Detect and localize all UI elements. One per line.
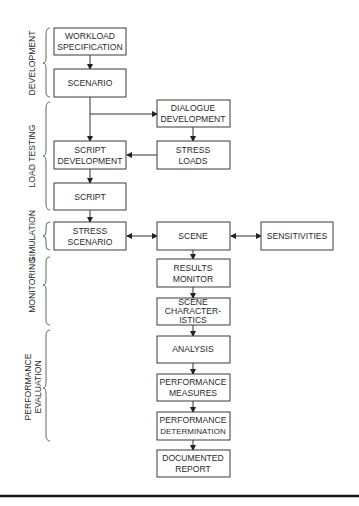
node-text: MEASURES xyxy=(169,388,217,398)
phase-label-performance: PERFORMANCE xyxy=(23,353,33,420)
node-text: PERFORMANCE xyxy=(160,377,227,387)
node-analysis: ANALYSIS xyxy=(157,336,230,363)
phase-load-testing: LOAD TESTING xyxy=(27,102,50,210)
node-text: SCRIPT xyxy=(74,192,106,202)
node-text: STRESS xyxy=(176,145,211,155)
node-text: DOCUMENTED xyxy=(162,453,224,463)
phase-label-monitoring: MONITORING xyxy=(27,257,37,313)
phase-label-development: DEVELOPMENT xyxy=(27,30,37,96)
node-text: REPORT xyxy=(175,464,211,474)
phase-brace-simulation xyxy=(43,222,50,250)
node-text: DEVELOPMENT xyxy=(161,114,227,124)
node-stress-scenario: STRESS SCENARIO xyxy=(54,222,126,250)
node-text: STRESS xyxy=(73,226,108,236)
node-text: DEVELOPMENT xyxy=(58,156,124,166)
phase-brace-load-testing xyxy=(43,102,50,210)
phase-performance-evaluation: PERFORMANCE EVALUATION xyxy=(23,330,50,441)
node-scenario: SCENARIO xyxy=(54,69,126,97)
node-results-monitor: RESULTS MONITOR xyxy=(157,259,230,287)
node-documented-report: DOCUMENTED REPORT xyxy=(157,450,230,477)
node-text: WORKLOAD xyxy=(65,31,115,41)
phase-brace-monitoring xyxy=(43,257,50,325)
phase-label-load-testing: LOAD TESTING xyxy=(27,124,37,187)
phase-development: DEVELOPMENT xyxy=(27,28,50,97)
node-text: SCENARIO xyxy=(68,78,113,88)
node-text: MONITOR xyxy=(173,274,213,284)
node-text: SCRIPT xyxy=(74,145,106,155)
node-dialogue-development: DIALOGUE DEVELOPMENT xyxy=(157,100,230,127)
node-performance-determination: PERFORMANCE DETERMINATION xyxy=(157,412,230,440)
phase-brace-development xyxy=(43,28,50,97)
node-performance-measures: PERFORMANCE MEASURES xyxy=(157,374,230,401)
phase-simulation: SIMULATION xyxy=(27,210,50,262)
node-text: ISTICS xyxy=(179,315,207,325)
node-text: DETERMINATION xyxy=(160,427,226,436)
node-text: SENSITIVITIES xyxy=(267,231,328,241)
node-text: PERFORMANCE xyxy=(160,415,227,425)
node-scene-characteristics: SCENE CHARACTER- ISTICS xyxy=(157,297,230,325)
node-text: ANALYSIS xyxy=(172,344,214,354)
node-text: LOADS xyxy=(178,156,207,166)
node-script: SCRIPT xyxy=(54,183,126,210)
node-scene: SCENE xyxy=(157,222,230,250)
flow-diagram: DEVELOPMENT LOAD TESTING SIMULATION MONI… xyxy=(0,0,359,506)
node-sensitivities: SENSITIVITIES xyxy=(261,222,333,250)
node-text: RESULTS xyxy=(174,263,213,273)
node-script-development: SCRIPT DEVELOPMENT xyxy=(54,141,126,169)
phase-monitoring: MONITORING xyxy=(27,257,50,325)
node-text: SPECIFICATION xyxy=(57,42,122,52)
node-text: SCENE xyxy=(178,231,208,241)
phase-label-simulation: SIMULATION xyxy=(27,210,37,262)
node-workload-specification: WORKLOAD SPECIFICATION xyxy=(54,28,126,55)
node-stress-loads: STRESS LOADS xyxy=(157,141,230,169)
node-text: SCENARIO xyxy=(68,237,113,247)
phase-brace-performance-evaluation xyxy=(43,330,50,441)
node-text: DIALOGUE xyxy=(171,103,216,113)
phase-label-evaluation: EVALUATION xyxy=(33,360,43,413)
